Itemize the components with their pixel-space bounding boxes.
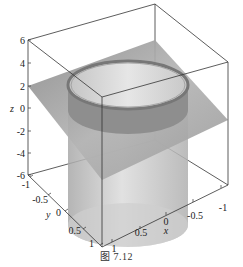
z-tick-label: 0 bbox=[20, 103, 25, 114]
y-tick-label: 0 bbox=[56, 207, 61, 218]
y-tick-label: -1 bbox=[22, 179, 30, 190]
x-tick-label: -1 bbox=[219, 202, 227, 213]
z-tick-label: 2 bbox=[20, 81, 25, 92]
x-tick-label: -0.5 bbox=[187, 210, 203, 221]
3d-surface-plot: 6 4 2 0 -2 -4 -6 z -1 -0.5 0 0.5 1 y bbox=[0, 0, 243, 267]
x-tick-label: 0.5 bbox=[135, 227, 148, 238]
z-axis-label: z bbox=[9, 103, 14, 114]
cylinder-top bbox=[68, 61, 188, 134]
figure-caption: 图 7.12 bbox=[100, 248, 133, 263]
y-tick-label: -0.5 bbox=[32, 194, 48, 205]
z-tick-label: -2 bbox=[17, 126, 25, 137]
z-tick-label: 4 bbox=[20, 58, 25, 69]
y-tick-label: 1 bbox=[89, 238, 94, 249]
y-axis-label: y bbox=[45, 209, 51, 220]
x-axis-label: x bbox=[163, 225, 169, 236]
y-tick-label: 0.5 bbox=[69, 225, 82, 236]
z-tick-label: -4 bbox=[17, 148, 25, 159]
z-tick-label: 6 bbox=[20, 35, 25, 46]
